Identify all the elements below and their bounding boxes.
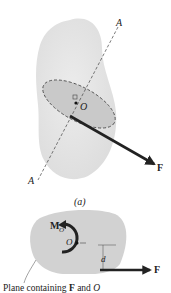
- force-label-b: F: [154, 264, 160, 275]
- axis-label-top: A: [115, 17, 123, 28]
- point-o-dot: [74, 101, 77, 104]
- plane-b-shape: [30, 210, 126, 274]
- point-o-label: O: [80, 101, 87, 112]
- point-o-dot-b: [76, 242, 79, 245]
- plane-caption: Plane containing F and O: [3, 283, 100, 293]
- diagram-canvas: O F A A (a) M O O d F Plane containing F…: [0, 0, 171, 293]
- caption-leader-line: [24, 260, 36, 283]
- moment-label-subscript: O: [59, 226, 64, 234]
- distance-label: d: [101, 254, 106, 264]
- caption-a: (a): [74, 196, 86, 208]
- force-label-a: F: [157, 162, 163, 173]
- point-o-label-b: O: [66, 237, 73, 247]
- axis-label-bottom: A: [27, 175, 35, 186]
